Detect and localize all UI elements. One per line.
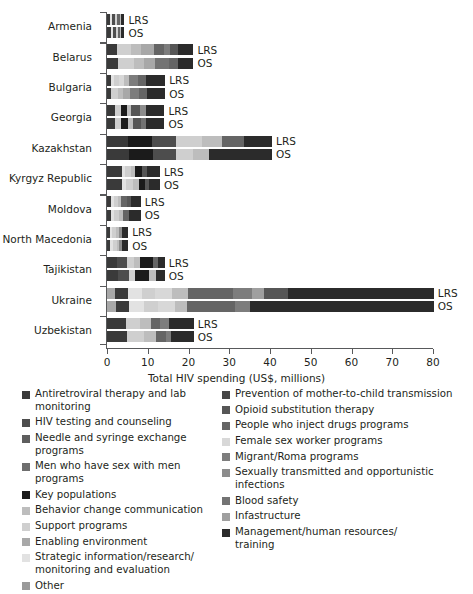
legend-item[interactable]: Prevention of mother-to-child transmissi…: [222, 388, 473, 401]
bar-segment: [107, 318, 126, 329]
bar-segment: [107, 166, 122, 177]
legend-item-label: Support programs: [35, 520, 127, 533]
x-axis-tick-label: 60: [345, 356, 358, 368]
bar-segment: [172, 288, 187, 299]
bar-segment: [188, 288, 234, 299]
x-axis-tick: [311, 349, 312, 354]
x-axis-tick: [352, 349, 353, 354]
stacked-bar: [107, 240, 128, 251]
bar-segment: [118, 58, 134, 69]
stacked-bar: [107, 196, 141, 207]
bar-series-label-os: OS: [438, 300, 453, 312]
bar-series-label-os: OS: [169, 270, 184, 282]
legend-item-label: Prevention of mother-to-child transmissi…: [235, 388, 452, 401]
bar-segment: [235, 301, 250, 312]
legend-item[interactable]: Enabling environment: [22, 536, 220, 549]
bar-segment: [149, 179, 160, 190]
legend-item[interactable]: Key populations: [22, 489, 220, 502]
legend-item[interactable]: Migrant/Roma programs: [222, 451, 473, 464]
bar-segment: [176, 136, 202, 147]
bar-segment: [107, 331, 127, 342]
bar-segment: [193, 149, 208, 160]
chart-legend: Antiretroviral therapy and lab monitorin…: [0, 388, 473, 558]
bar-segment: [121, 27, 124, 38]
bar-series-label-lrs: LRS: [168, 105, 188, 117]
bar-series-label-lrs: LRS: [145, 196, 165, 208]
bar-segment: [147, 88, 165, 99]
legend-item-label: People who inject drugs programs: [235, 419, 408, 432]
bar-segment: [209, 149, 272, 160]
bar-segment: [146, 75, 165, 86]
legend-item[interactable]: Men who have sex with men programs: [22, 460, 220, 485]
stacked-bar: [107, 270, 165, 281]
bar-segment: [107, 136, 128, 147]
x-axis-tick-label: 30: [223, 356, 236, 368]
y-axis-category-label: Belarus: [53, 51, 92, 63]
legend-item[interactable]: People who inject drugs programs: [222, 419, 473, 432]
legend-item[interactable]: Blood safety: [222, 495, 473, 508]
bar-series-label-lrs: LRS: [132, 226, 152, 238]
bar-segment: [122, 227, 128, 238]
bar-segment: [129, 210, 140, 221]
bar-series-label-os: OS: [168, 118, 183, 130]
legend-item[interactable]: Behavior change communication: [22, 504, 220, 517]
bar-segment: [115, 288, 128, 299]
bar-segment: [129, 75, 137, 86]
bar-segment: [146, 118, 164, 129]
bar-segment: [156, 270, 165, 281]
y-axis-tick: [100, 134, 106, 135]
legend-item[interactable]: Support programs: [22, 520, 220, 533]
x-axis-tick-label: 70: [386, 356, 399, 368]
bar-segment: [107, 118, 115, 129]
legend-item[interactable]: Opioid substitution therapy: [222, 404, 473, 417]
bar-segment: [175, 301, 186, 312]
legend-item[interactable]: HIV testing and counseling: [22, 416, 220, 429]
bar-series-label-os: OS: [132, 240, 147, 252]
y-axis-tick: [100, 103, 106, 104]
bar-series-label-lrs: LRS: [169, 257, 189, 269]
stacked-bar: [107, 318, 194, 329]
legend-item[interactable]: Infastructure: [222, 510, 473, 523]
y-axis-category-label: Georgia: [51, 111, 92, 123]
y-axis-category-label: Moldova: [48, 203, 92, 215]
bar-segment: [122, 240, 128, 251]
bar-segment: [116, 301, 129, 312]
stacked-bar: [107, 14, 124, 25]
y-axis-category-label: Ukraine: [51, 294, 92, 306]
bar-segment: [134, 58, 145, 69]
stacked-bar: [107, 44, 193, 55]
bar-segment: [152, 136, 176, 147]
legend-swatch-icon: [22, 538, 30, 546]
legend-swatch-icon: [222, 438, 230, 446]
bar-segment: [244, 136, 272, 147]
legend-swatch-icon: [222, 513, 230, 521]
bar-segment: [107, 301, 116, 312]
bar-segment: [127, 331, 145, 342]
legend-item[interactable]: Strategic information/research/ monitori…: [22, 551, 220, 576]
legend-item[interactable]: Female sex worker programs: [222, 435, 473, 448]
stacked-bar: [107, 288, 434, 299]
bar-segment: [252, 288, 264, 299]
bar-segment: [133, 118, 141, 129]
legend-item-label: Antiretroviral therapy and lab monitorin…: [35, 388, 220, 413]
bar-segment: [117, 44, 132, 55]
stacked-bar: [107, 118, 164, 129]
legend-item[interactable]: Needle and syringe exchange programs: [22, 432, 220, 457]
y-axis-tick: [100, 286, 106, 287]
bar-series-label-lrs: LRS: [164, 166, 184, 178]
x-axis-tick: [270, 349, 271, 354]
legend-swatch-icon: [222, 469, 230, 477]
x-axis-tick: [107, 349, 108, 354]
legend-item[interactable]: Management/human resources/ training: [222, 526, 473, 551]
stacked-bar: [107, 331, 194, 342]
legend-item[interactable]: Other: [22, 580, 220, 593]
legend-swatch-icon: [222, 453, 230, 461]
bar-segment: [187, 301, 235, 312]
legend-swatch-icon: [22, 419, 30, 427]
legend-item[interactable]: Antiretroviral therapy and lab monitorin…: [22, 388, 220, 413]
legend-item[interactable]: Sexually transmitted and opportunistic i…: [222, 466, 473, 491]
y-axis-category-label: Bulgaria: [48, 81, 92, 93]
stacked-bar: [107, 179, 160, 190]
bar-series-label-os: OS: [276, 148, 291, 160]
bar-segment: [160, 318, 169, 329]
